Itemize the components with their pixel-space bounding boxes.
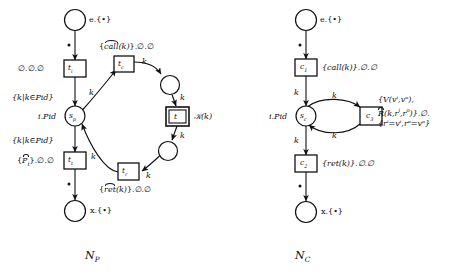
producer-transition-tr-inner: tr [122,166,127,177]
producer-transition-t-inner [169,110,186,123]
producer-transition-tc [114,56,134,72]
consumer-arc-c3-sc-label: k [332,131,337,140]
producer-place-x-label: x.{•} [90,206,112,215]
consumer-place-sc-label: i.Pid [269,112,287,121]
producer-transition-t-annotation: 𝒦(k) [194,112,212,121]
consumer-transition-c3-inner: c3 [366,111,373,122]
producer-arc-midtop-t [172,95,176,107]
consumer-place-x-label: x.{•} [321,207,343,216]
producer-arc-sp-tc [83,70,117,110]
producer-place-sp-inner: sp [69,111,76,122]
producer-transition-t-inner-label: t [174,112,177,121]
caption-consumer-net: NC [295,249,310,264]
consumer-transition-c1-inner: c1 [300,62,307,73]
consumer-place-e-label: e.{•} [320,15,342,24]
producer-arc-t-midbot [172,126,177,140]
producer-transition-tc-inner: tc [118,59,124,70]
consumer-place-x [296,202,317,223]
c3-annotation-line-1: {V(vⁱ,vᵒ), [378,95,430,105]
producer-token-x [68,183,71,186]
producer-arc-tr-sp-label: k [91,152,96,161]
producer-arc-tc-midtop-label: k [142,57,147,66]
producer-place-x [65,201,86,222]
producer-transition-ti-annotation: ∅.∅.∅ [18,64,44,73]
producer-arc-midbot-tr [142,156,160,171]
consumer-arc-sc-c3 [308,99,360,107]
consumer-arc-sc-c3-label: k [332,91,337,100]
producer-transition-tc-annotation: {call(k)}.∅.∅ [99,42,154,51]
producer-place-mid-top [161,76,180,95]
producer-arc-ti-sp-label: {k|k∈Pid} [12,93,54,102]
producer-place-sp-label: i.Pid [38,112,56,121]
consumer-transition-c1-annotation: {call(k)}.∅.∅ [322,63,377,72]
consumer-token-e [299,44,302,47]
producer-arc-tc-midtop [134,62,161,74]
producer-arc-midbot-tr-label: k [146,171,151,180]
consumer-place-e [296,10,317,31]
petri-net-drawing [0,0,460,276]
consumer-arc-c1-sc-label: k [294,88,299,97]
caption-producer-net: NP [85,249,100,264]
consumer-transition-c3-annotation: {V(vⁱ,vᵒ), R(k,ri,ro)}.∅. {rⁱ=vⁱ,rᵒ=vᵒ} [378,95,430,129]
c3-annotation-line-2: R(k,ri,ro)}.∅. [378,105,430,119]
producer-arc-midtop-t-label: k [180,93,185,102]
consumer-arc-sc-c2-label: k [294,136,299,145]
producer-place-e-label: e.{•} [89,15,111,24]
producer-place-e [65,10,86,31]
producer-arc-tr-sp [82,124,118,172]
c3-annotation-line-3: {rⁱ=vⁱ,rᵒ=vᵒ} [378,119,430,129]
consumer-transition-c2-annotation: {ret(k)}.∅.∅ [322,159,374,168]
producer-transition-tt-annotation: {Pt}.∅.∅ [17,156,54,167]
consumer-place-sc-inner: sc [300,111,307,122]
producer-place-mid-bottom [159,142,178,161]
producer-transition-tt-inner: tt [68,155,73,166]
figure-root: e.{•} ti ∅.∅.∅ {k|k∈Pid} sp i.Pid k tc {… [0,0,460,276]
producer-token-e [68,44,71,47]
producer-arc-t-midbot-label: k [180,131,185,140]
producer-arc-sp-tt-label: {k|k∈Pid} [12,136,54,145]
producer-arc-sp-tc-label: k [89,88,94,97]
consumer-transition-c2-inner: c2 [300,158,307,169]
consumer-token-x [299,185,302,188]
producer-transition-tr-annotation: {ret(k)}.∅.∅ [99,185,151,194]
producer-transition-ti-inner: ti [68,63,73,74]
